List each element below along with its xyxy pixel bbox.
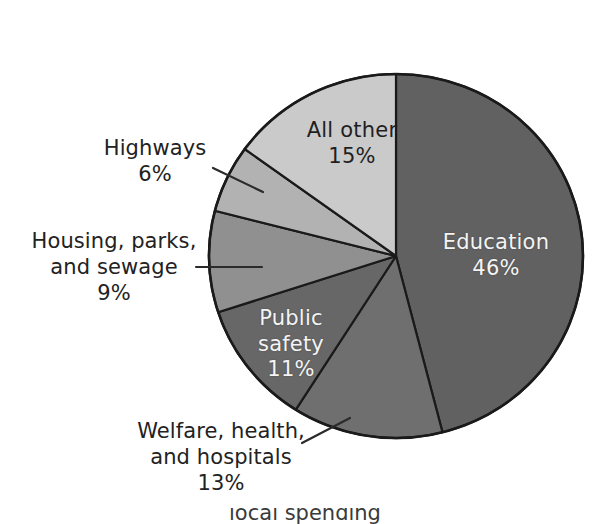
slice-label-public-safety-line1: Public bbox=[238, 306, 344, 332]
slice-label-public-safety-percent: 11% bbox=[238, 357, 344, 383]
slice-label-education-line1: Education bbox=[430, 230, 562, 256]
slice-label-housing-percent: 9% bbox=[8, 280, 220, 306]
slice-label-welfare-line1: Welfare, health, bbox=[112, 418, 330, 444]
slice-label-public-safety: Public safety 11% bbox=[238, 306, 344, 383]
slice-label-housing-line1: Housing, parks, bbox=[8, 228, 220, 254]
slice-label-welfare-line2: and hospitals bbox=[112, 444, 330, 470]
pie-chart-figure: Education 46% Public safety 11% All othe… bbox=[0, 0, 610, 524]
slice-label-highways-line1: Highways bbox=[82, 135, 228, 161]
slice-label-education: Education 46% bbox=[430, 230, 562, 281]
slice-label-welfare: Welfare, health, and hospitals 13% bbox=[112, 418, 330, 496]
slice-label-welfare-percent: 13% bbox=[112, 470, 330, 496]
slice-label-all-other: All other 15% bbox=[293, 118, 411, 169]
slice-label-highways: Highways 6% bbox=[82, 135, 228, 187]
bottom-caption-text: local spending bbox=[0, 508, 610, 524]
slice-label-all-other-line1: All other bbox=[293, 118, 411, 144]
slice-label-housing-line2: and sewage bbox=[8, 254, 220, 280]
slice-label-public-safety-line2: safety bbox=[238, 332, 344, 358]
slice-label-housing: Housing, parks, and sewage 9% bbox=[8, 228, 220, 306]
slice-label-all-other-percent: 15% bbox=[293, 144, 411, 170]
slice-label-highways-percent: 6% bbox=[82, 161, 228, 187]
bottom-caption-cropped: local spending bbox=[0, 508, 610, 524]
slice-label-education-percent: 46% bbox=[430, 256, 562, 282]
